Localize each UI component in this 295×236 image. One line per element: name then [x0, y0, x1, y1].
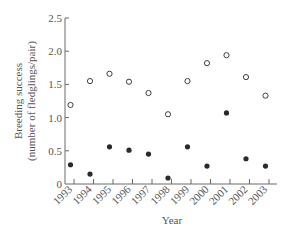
open-circle-point: [107, 71, 112, 76]
y-tick-label: 1.5: [48, 78, 62, 90]
filled-circle-point: [165, 175, 170, 180]
x-tick-label: 1998: [148, 183, 172, 207]
x-tick-label: 1997: [128, 183, 152, 207]
filled-circle-point: [87, 171, 92, 176]
open-circle-point: [263, 93, 268, 98]
x-tick-label: 1993: [50, 183, 74, 207]
open-circle-point: [243, 74, 248, 79]
filled-circle-point: [224, 110, 229, 115]
open-circle-point: [185, 78, 190, 83]
x-tick-label: 1995: [89, 183, 113, 207]
filled-circle-point: [263, 163, 268, 168]
y-axis-title-line2: (number of fledglings/pair): [25, 41, 38, 161]
x-tick-label: 2000: [187, 183, 211, 207]
open-circle-point: [146, 90, 151, 95]
x-tick-label: 2002: [226, 183, 250, 207]
open-circle-point: [68, 102, 73, 107]
filled-circle-point: [185, 144, 190, 149]
filled-circle-point: [243, 156, 248, 161]
open-circle-point: [87, 78, 92, 83]
data-points: [68, 53, 268, 181]
y-axis: 00.51.01.52.02.5: [48, 12, 69, 190]
y-tick-label: 0.5: [48, 145, 62, 157]
open-circle-point: [204, 61, 209, 66]
x-tick-label: 1994: [70, 183, 94, 207]
filled-circle-point: [68, 162, 73, 167]
x-tick-label: 1996: [109, 183, 133, 207]
y-tick-label: 2.5: [48, 12, 62, 24]
x-axis-title: Year: [162, 214, 183, 226]
filled-circle-point: [146, 152, 151, 157]
y-tick-label: 1.0: [48, 112, 62, 124]
open-circle-point: [126, 79, 131, 84]
y-axis-title-line1: Breeding success: [12, 63, 24, 139]
filled-circle-point: [107, 144, 112, 149]
scatter-chart: 00.51.01.52.02.5 19931994199519961997199…: [0, 0, 295, 236]
x-axis: 1993199419951996199719981999200020012002…: [50, 179, 277, 207]
x-tick-label: 2003: [245, 183, 269, 207]
x-tick-label: 1999: [167, 183, 191, 207]
filled-circle-point: [204, 163, 209, 168]
x-tick-label: 2001: [206, 183, 230, 207]
filled-circle-point: [126, 148, 131, 153]
open-circle-point: [165, 112, 170, 117]
y-tick-label: 2.0: [48, 45, 62, 57]
open-circle-point: [224, 53, 229, 58]
